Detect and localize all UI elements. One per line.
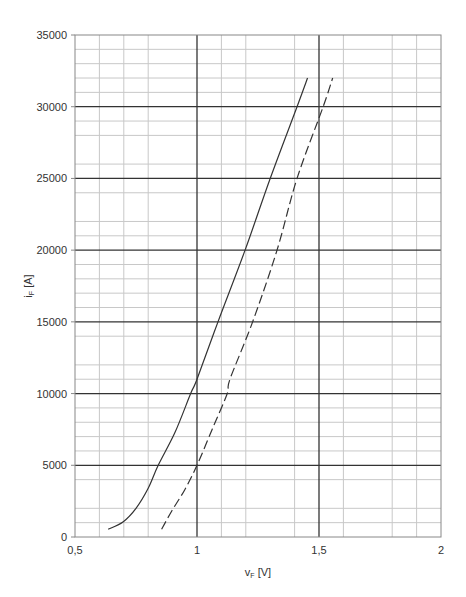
y-axis-ticks: 05000100001500020000250003000035000 xyxy=(36,29,75,543)
y-tick-label: 30000 xyxy=(36,101,67,113)
y-axis-label: iF [A] xyxy=(22,274,35,297)
y-tick-label: 20000 xyxy=(36,244,67,256)
series-layer xyxy=(108,78,332,529)
series-dashed-line xyxy=(162,78,333,529)
y-tick-label: 25000 xyxy=(36,172,67,184)
x-tick-label: 1,5 xyxy=(311,544,326,556)
y-tick-label: 10000 xyxy=(36,388,67,400)
y-tick-label: 5000 xyxy=(43,459,67,471)
y-tick-label: 35000 xyxy=(36,29,67,41)
x-tick-label: 0,5 xyxy=(67,544,82,556)
x-axis-ticks: 0,511,52 xyxy=(67,544,444,556)
y-tick-label: 15000 xyxy=(36,316,67,328)
x-tick-label: 1 xyxy=(194,544,200,556)
series-solid-line xyxy=(108,78,307,529)
chart: 05000100001500020000250003000035000 0,51… xyxy=(0,0,466,597)
y-tick-label: 0 xyxy=(61,531,67,543)
x-tick-label: 2 xyxy=(438,544,444,556)
minor-gridlines xyxy=(75,35,441,537)
major-gridlines xyxy=(75,35,441,537)
plot-frame xyxy=(75,35,441,537)
x-axis-label: vF [V] xyxy=(245,566,271,579)
